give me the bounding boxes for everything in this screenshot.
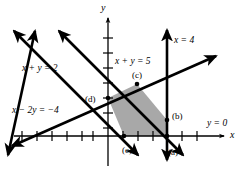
vertex-label-e: (e) xyxy=(122,146,132,155)
label-x-plus-y-2: x + y = 2 xyxy=(22,64,58,74)
label-x-equals-4: x = 4 xyxy=(174,36,194,46)
y-axis xyxy=(103,18,113,166)
vertex-dot-e xyxy=(122,134,127,139)
label-y-equals-0: y = 0 xyxy=(207,119,227,129)
vertex-label-c: (c) xyxy=(132,71,142,80)
vertex-label-d: (d) xyxy=(85,95,96,104)
label-x-minus-2y-neg4: x − 2y = −4 xyxy=(12,106,59,116)
vertex-label-b: (b) xyxy=(172,112,183,121)
vertex-dot-d xyxy=(106,96,111,101)
vertex-dot-a xyxy=(165,134,170,139)
vertex-dot-b xyxy=(165,118,170,123)
linear-programming-figure: x + y = 2 x + y = 5 x − 2y = −4 x = 4 y … xyxy=(0,0,247,172)
y-axis-label: y xyxy=(101,3,105,13)
vertex-dot-c xyxy=(135,82,140,87)
x-axis-label: x xyxy=(230,130,234,140)
vertex-label-a: (a) xyxy=(168,148,178,157)
label-x-plus-y-5: x + y = 5 xyxy=(115,57,151,67)
